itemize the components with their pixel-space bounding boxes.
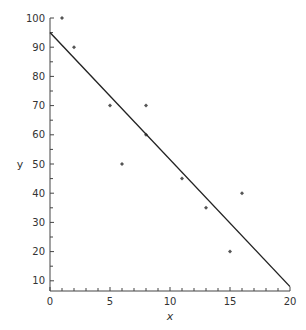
y-tick-label: 40 [32,188,45,199]
plot-area [50,16,290,287]
data-point [144,104,148,108]
scatter-chart: 05101520102030405060708090100 x y [0,0,306,330]
data-point [120,162,124,166]
data-point [108,104,112,108]
data-point [204,206,208,210]
axes: 05101520102030405060708090100 [26,13,296,308]
x-tick-label: 0 [47,296,53,307]
x-tick-label: 15 [224,296,237,307]
data-point [180,177,184,181]
x-tick-label: 20 [284,296,297,307]
x-tick-label: 5 [107,296,113,307]
data-point [228,250,232,254]
y-tick-label: 20 [32,246,45,257]
data-point [240,191,244,195]
y-tick-label: 60 [32,129,45,140]
x-tick-label: 10 [164,296,177,307]
data-point [72,45,76,49]
y-tick-label: 10 [32,275,45,286]
y-tick-label: 70 [32,100,45,111]
data-point [60,16,64,20]
y-tick-label: 50 [32,159,45,170]
regression-line [50,33,290,287]
y-tick-label: 90 [32,42,45,53]
y-tick-label: 80 [32,71,45,82]
x-axis-label: x [166,310,174,323]
y-axis-label: y [17,158,24,171]
y-tick-label: 30 [32,217,45,228]
y-tick-label: 100 [26,13,45,24]
